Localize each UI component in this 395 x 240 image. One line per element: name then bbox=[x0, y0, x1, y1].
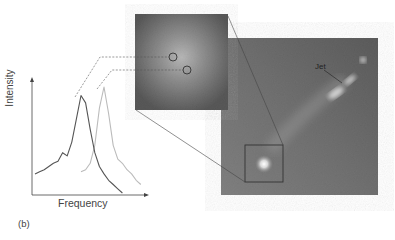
spectrum-line-dark bbox=[35, 96, 122, 194]
x-axis-arrow-icon bbox=[144, 193, 149, 197]
panel-label: (b) bbox=[18, 218, 30, 229]
spectrum-line-light bbox=[81, 87, 141, 185]
galaxy-inset-image bbox=[135, 14, 228, 110]
spectrum-chart bbox=[30, 77, 149, 197]
y-axis-label: Intensity bbox=[4, 58, 15, 118]
jet-annotation: Jet bbox=[315, 62, 326, 71]
x-axis-label: Frequency bbox=[58, 197, 108, 209]
y-axis-arrow-icon bbox=[30, 77, 34, 82]
